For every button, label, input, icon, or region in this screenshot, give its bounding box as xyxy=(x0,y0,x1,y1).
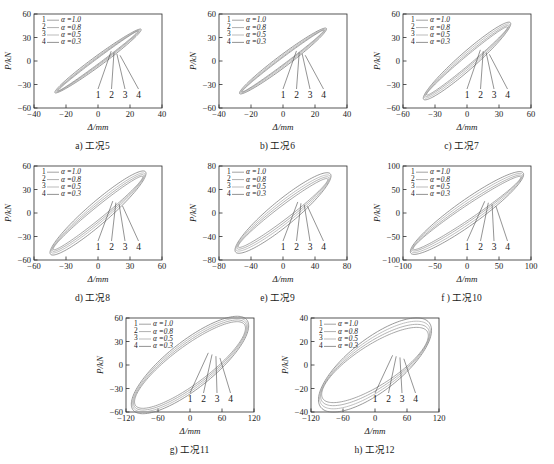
x-tick-label: 60 xyxy=(403,413,412,423)
curve-marker-4: 4 xyxy=(136,90,141,100)
legend-label-4: α =0.3 xyxy=(246,37,266,46)
x-tick-label: 120 xyxy=(433,413,446,423)
y-tick-label: 0 xyxy=(27,56,31,66)
x-axis-label: Δ/mm xyxy=(456,122,478,132)
x-tick-label: 0 xyxy=(465,109,469,119)
x-axis-label: Δ/mm xyxy=(456,274,478,284)
x-tick-label: 60 xyxy=(158,261,167,271)
curve-marker-2: 2 xyxy=(201,394,206,404)
x-tick-label: 50 xyxy=(495,261,504,271)
y-tick-label: 0 xyxy=(119,360,123,370)
leader-line-2 xyxy=(112,53,114,89)
y-tick-label: −80 xyxy=(203,255,216,265)
y-tick-label: 50 xyxy=(392,185,401,195)
y-tick-label: −100 xyxy=(382,255,400,265)
y-axis-label: P/kN xyxy=(3,203,13,223)
panel-caption: e) 工况9 xyxy=(260,293,295,304)
chart-h: −120−60060120−40−2002040Δ/mmP/kNh) 工况121… xyxy=(277,304,472,456)
y-tick-label: 40 xyxy=(208,185,217,195)
y-tick-label: 40 xyxy=(300,313,309,323)
x-tick-label: 20 xyxy=(126,109,135,119)
y-tick-label: −60 xyxy=(18,255,31,265)
x-tick-label: 40 xyxy=(158,109,167,119)
x-tick-label: −60 xyxy=(336,413,349,423)
x-tick-label: 0 xyxy=(465,261,469,271)
chart-f: −100−50050100−100−50050100Δ/mmP/kNf ) 工况… xyxy=(369,152,554,304)
y-tick-label: 30 xyxy=(208,33,217,43)
y-tick-label: 0 xyxy=(396,208,400,218)
x-tick-label: 0 xyxy=(281,109,285,119)
x-tick-label: 60 xyxy=(218,413,227,423)
leader-line-3 xyxy=(216,356,217,393)
x-tick-label: 30 xyxy=(495,109,504,119)
y-tick-label: −30 xyxy=(203,80,216,90)
x-axis-label: Δ/mm xyxy=(364,426,386,436)
x-tick-label: 60 xyxy=(527,109,536,119)
y-tick-label: −60 xyxy=(110,407,123,417)
chart-panel-d: −60−3003060−60−3003060Δ/mmP/kNd) 工况81α =… xyxy=(0,152,185,304)
x-tick-label: 40 xyxy=(343,109,352,119)
y-tick-label: 30 xyxy=(23,33,32,43)
leader-line-4 xyxy=(489,54,507,89)
leader-line-4 xyxy=(120,55,138,89)
curve-marker-2: 2 xyxy=(109,242,114,252)
y-axis-label: P/kN xyxy=(372,203,382,223)
panel-caption: a) 工况5 xyxy=(75,141,110,152)
chart-panel-b: −40−2002040−60−3003060Δ/mmP/kNb) 工况61α =… xyxy=(185,0,370,152)
chart-panel-e: −80−4004080−80−4004080Δ/mmP/kNe) 工况91α =… xyxy=(185,152,370,304)
legend-label-4: α =0.3 xyxy=(61,37,81,46)
leader-line-1 xyxy=(467,50,480,89)
panel-caption: c) 工况7 xyxy=(444,141,479,152)
chart-d: −60−3003060−60−3003060Δ/mmP/kNd) 工况81α =… xyxy=(0,152,185,304)
leader-line-3 xyxy=(486,53,494,89)
leader-line-3 xyxy=(492,204,494,241)
y-tick-label: 0 xyxy=(212,56,216,66)
chart-b: −40−2002040−60−3003060Δ/mmP/kNb) 工况61α =… xyxy=(185,0,370,152)
leader-line-3 xyxy=(400,357,402,393)
x-tick-label: −30 xyxy=(59,261,72,271)
y-tick-label: −30 xyxy=(18,80,31,90)
leader-line-4 xyxy=(496,206,508,241)
panel-caption: g) 工况11 xyxy=(170,445,210,456)
curve-marker-1: 1 xyxy=(96,90,101,100)
curve-marker-3: 3 xyxy=(492,90,497,100)
y-tick-label: −60 xyxy=(387,103,400,113)
x-tick-label: 100 xyxy=(525,261,538,271)
x-tick-label: 0 xyxy=(281,261,285,271)
y-tick-label: 20 xyxy=(300,337,309,347)
curve-marker-4: 4 xyxy=(321,242,326,252)
curve-marker-3: 3 xyxy=(308,242,313,252)
curve-marker-4: 4 xyxy=(505,90,510,100)
y-tick-label: −60 xyxy=(18,103,31,113)
x-tick-label: −30 xyxy=(428,109,441,119)
y-tick-label: 80 xyxy=(208,161,217,171)
curve-marker-2: 2 xyxy=(294,90,299,100)
curve-marker-1: 1 xyxy=(188,394,193,404)
curve-marker-2: 2 xyxy=(478,242,483,252)
curve-marker-2: 2 xyxy=(109,90,114,100)
x-tick-label: 0 xyxy=(96,261,100,271)
y-tick-label: 0 xyxy=(304,360,308,370)
chart-c: −60−3003060−60−3003060Δ/mmP/kNc) 工况71α =… xyxy=(369,0,554,152)
x-axis-label: Δ/mm xyxy=(87,274,109,284)
x-tick-label: 0 xyxy=(373,413,377,423)
x-tick-label: −20 xyxy=(244,109,257,119)
x-axis-label: Δ/mm xyxy=(179,426,201,436)
leader-line-1 xyxy=(98,201,113,241)
legend-label-4: α =0.3 xyxy=(246,189,266,198)
panel-caption: h) 工况12 xyxy=(355,445,395,456)
leader-line-3 xyxy=(302,54,310,89)
y-tick-label: 0 xyxy=(27,208,31,218)
curve-marker-4: 4 xyxy=(505,242,510,252)
y-tick-label: 60 xyxy=(392,9,401,19)
x-tick-label: 0 xyxy=(188,413,192,423)
y-tick-label: −20 xyxy=(295,384,308,394)
y-tick-label: −50 xyxy=(387,232,400,242)
legend-label-4: α =0.3 xyxy=(338,341,358,350)
legend-key-4: 4 xyxy=(411,37,415,46)
curve-marker-3: 3 xyxy=(123,90,128,100)
curve-marker-1: 1 xyxy=(465,242,470,252)
curve-marker-3: 3 xyxy=(215,394,220,404)
chart-panel-f: −100−50050100−100−50050100Δ/mmP/kNf ) 工况… xyxy=(369,152,554,304)
curve-marker-3: 3 xyxy=(400,394,405,404)
